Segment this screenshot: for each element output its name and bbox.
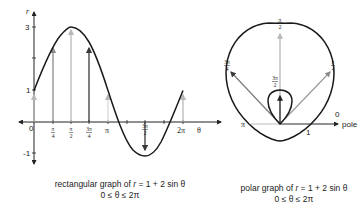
polar-graph: π2 π4 3π4 3π2 0 π 1 pole: [224, 17, 358, 141]
tick-label-3pi-2: 3π2: [142, 123, 148, 136]
svg-text:π: π: [52, 126, 55, 132]
rectangular-caption-line2: 0 ≤ θ ≤ 2π: [40, 190, 200, 201]
tick-label-pi-2: π2: [69, 126, 73, 139]
polar-caption-line2: 0 ≤ θ ≤ 2π: [229, 194, 359, 202]
sine-curve: [34, 27, 183, 156]
label-0: 0: [335, 110, 340, 119]
rectangular-graph: r 3 1 -1 0 π4 π2 3π4 3π2 π 2π θ: [19, 7, 221, 164]
tick-label-pi: π: [105, 126, 109, 135]
svg-text:4: 4: [88, 133, 91, 139]
y-axis-label: r: [26, 7, 30, 16]
svg-text:π: π: [70, 126, 73, 132]
svg-text:4: 4: [332, 66, 335, 72]
label-1: 1: [306, 128, 311, 137]
label-pi: π: [241, 120, 245, 129]
svg-text:2: 2: [70, 133, 73, 139]
tick-label-neg1: -1: [23, 149, 31, 158]
svg-text:4: 4: [52, 133, 55, 139]
polar-caption-line1: polar graph of r = 1 + 2 sin θ: [229, 183, 359, 194]
polar-caption: polar graph of r = 1 + 2 sin θ 0 ≤ θ ≤ 2…: [229, 183, 359, 202]
label-3pi-2: 3π2: [272, 75, 278, 88]
tick-label-3pi-4: 3π4: [86, 126, 92, 139]
svg-text:3π: 3π: [224, 59, 230, 65]
tick-label-3: 3: [25, 23, 30, 32]
svg-text:π: π: [332, 59, 335, 65]
label-pi-2: π2: [278, 17, 282, 30]
label-3pi-4: 3π4: [224, 59, 230, 72]
svg-text:3π: 3π: [272, 75, 278, 81]
svg-text:π: π: [279, 17, 282, 23]
tick-label-pi-4: π4: [51, 126, 55, 139]
tick-label-0: 0: [29, 124, 34, 133]
label-pole: pole: [342, 120, 358, 129]
svg-text:2: 2: [274, 82, 277, 88]
rectangular-caption-line1: rectangular graph of r = 1 + 2 sin θ: [40, 179, 200, 190]
tick-label-1: 1: [26, 86, 31, 95]
svg-text:3π: 3π: [86, 126, 92, 132]
svg-text:2: 2: [144, 130, 147, 136]
svg-text:4: 4: [226, 66, 229, 72]
rectangular-caption: rectangular graph of r = 1 + 2 sin θ 0 ≤…: [40, 179, 200, 201]
diagram-canvas: r 3 1 -1 0 π4 π2 3π4 3π2 π 2π θ: [0, 0, 359, 202]
x-axis-label: θ: [197, 126, 201, 135]
tick-label-2pi: 2π: [177, 126, 185, 135]
svg-text:3π: 3π: [142, 123, 148, 129]
svg-text:2: 2: [279, 24, 282, 30]
